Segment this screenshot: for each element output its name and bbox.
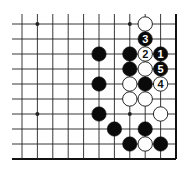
black-stone-move-1: 1 [153,47,167,61]
black-stone-move-5: 5 [153,62,167,76]
white-stone-move-4: 4 [153,77,167,91]
move-number-label: 3 [142,33,148,45]
white-stone [123,92,137,106]
white-stone [153,107,167,121]
white-stone-move-2: 2 [138,47,152,61]
black-stone [123,47,137,61]
black-stone [138,77,152,91]
star-point-icon [35,112,39,116]
white-stone-icon [153,107,167,121]
white-stone [123,77,137,91]
black-stone-icon [92,107,106,121]
black-stone-icon [123,47,137,61]
white-stone-icon [138,92,152,106]
move-number-label: 1 [158,48,164,60]
black-stone [138,122,152,136]
white-stone-icon [138,62,152,76]
white-stone [138,92,152,106]
white-stone-icon [138,137,152,151]
move-number-label: 5 [158,63,164,75]
black-stone [153,137,167,151]
black-stone-icon [107,122,121,136]
white-stone-icon [123,92,137,106]
black-stone-icon [138,77,152,91]
black-stone [92,47,106,61]
white-stone-icon [138,17,152,31]
go-board-svg: 32154 [0,0,192,171]
black-stone [107,122,121,136]
move-number-label: 4 [158,78,165,90]
star-point-icon [35,22,39,26]
star-point-icon [128,22,132,26]
black-stone [92,107,106,121]
white-stone [138,62,152,76]
black-stone [123,137,137,151]
white-stone [138,137,152,151]
black-stone-move-3: 3 [138,32,152,46]
black-stone-icon [138,122,152,136]
star-point-icon [128,112,132,116]
black-stone-icon [123,137,137,151]
black-stone [123,62,137,76]
black-stone-icon [123,62,137,76]
black-stone-icon [92,47,106,61]
white-stone [138,17,152,31]
black-stone [92,77,106,91]
black-stone-icon [92,77,106,91]
black-stone-icon [153,137,167,151]
move-number-label: 2 [142,48,148,60]
white-stone-icon [123,77,137,91]
go-board-diagram: 32154 [0,0,192,171]
